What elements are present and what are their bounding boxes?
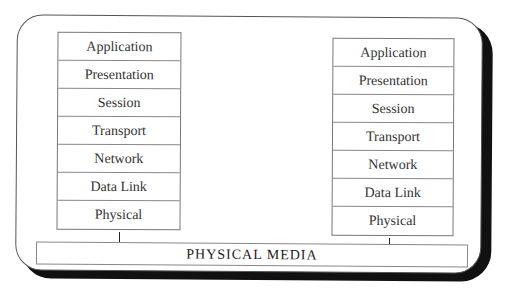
right-layer-network: Network: [333, 151, 453, 180]
right-layer-data-link: Data Link: [333, 179, 453, 208]
left-layer-transport: Transport: [58, 117, 180, 146]
left-osi-stack: Application Presentation Session Transpo…: [56, 32, 181, 231]
right-layer-physical: Physical: [332, 207, 452, 236]
left-layer-network: Network: [58, 145, 180, 174]
left-layer-application: Application: [58, 33, 180, 62]
right-layer-transport: Transport: [333, 123, 453, 152]
right-layer-session: Session: [333, 95, 453, 124]
left-layer-presentation: Presentation: [58, 61, 180, 90]
physical-media-bar: PHYSICAL MEDIA: [36, 241, 468, 267]
left-layer-session: Session: [58, 89, 180, 118]
left-layer-data-link: Data Link: [58, 173, 180, 202]
left-layer-physical: Physical: [57, 201, 179, 230]
right-layer-application: Application: [333, 39, 453, 68]
right-osi-stack: Application Presentation Session Transpo…: [331, 38, 454, 237]
right-layer-presentation: Presentation: [333, 67, 453, 96]
